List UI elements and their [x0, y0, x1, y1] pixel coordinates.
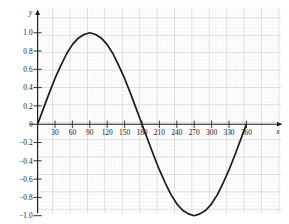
graph-figure: 1.00.80.60.40.20−0.2−0.4−0.6−0.8−1.0 306… — [0, 0, 289, 224]
x-tick-label: 300 — [206, 128, 217, 137]
x-tick-label: 210 — [154, 128, 165, 137]
y-tick-label: −0.4 — [19, 157, 33, 166]
y-tick-label: 0.2 — [23, 102, 33, 111]
y-tick-label: 0.8 — [23, 47, 33, 56]
x-tick-label: 240 — [171, 128, 182, 137]
x-tick-label: 30 — [51, 128, 59, 137]
y-tick-label: −0.2 — [19, 138, 33, 147]
x-tick-label: 330 — [223, 128, 234, 137]
x-tick-label: 90 — [86, 128, 94, 137]
x-tick-label: 270 — [189, 128, 200, 137]
x-axis-label: x — [275, 127, 280, 136]
x-tick-label: 120 — [102, 128, 113, 137]
y-axis-label: y — [28, 8, 33, 17]
y-tick-label: 0 — [29, 120, 33, 129]
sine-graph-plot: 1.00.80.60.40.20−0.2−0.4−0.6−0.8−1.0 306… — [0, 0, 289, 224]
y-tick-label: −0.8 — [19, 193, 33, 202]
grid-area — [38, 8, 282, 214]
y-tick-label: 0.4 — [23, 83, 33, 92]
y-tick-label: 1.0 — [23, 28, 33, 37]
y-tick-label: −1.0 — [19, 211, 33, 220]
x-tick-label: 60 — [69, 128, 77, 137]
x-tick-label: 150 — [119, 128, 130, 137]
y-tick-label: 0.6 — [23, 65, 33, 74]
y-tick-label: −0.6 — [19, 175, 33, 184]
graph-svg: 1.00.80.60.40.20−0.2−0.4−0.6−0.8−1.0 306… — [0, 0, 289, 224]
